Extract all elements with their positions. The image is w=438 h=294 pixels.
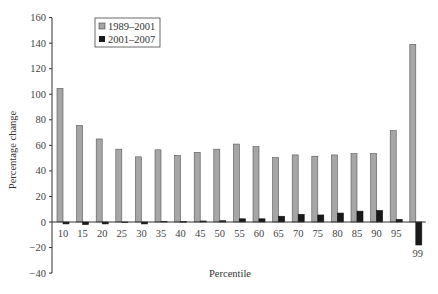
- x-tick-label: 50: [215, 228, 226, 239]
- legend: 1989–2001 2001–2007: [95, 18, 160, 47]
- y-tick-label: 160: [30, 12, 46, 23]
- x-tick-label: 45: [195, 228, 206, 239]
- x-tick-label: 10: [58, 228, 69, 239]
- x-tick-label: 80: [332, 228, 343, 239]
- legend-label-1989-2001: 1989–2001: [108, 21, 155, 32]
- x-tick-label: 75: [313, 228, 324, 239]
- y-tick-label: −40: [30, 268, 46, 279]
- bar-1989-2001-p55: [233, 144, 239, 222]
- bar-1989-2001-p35: [155, 150, 161, 222]
- bar-1989-2001-p45: [194, 152, 200, 222]
- x-tick-label: 40: [175, 228, 186, 239]
- y-tick-label: 140: [30, 38, 46, 49]
- x-tick-label: 90: [371, 228, 382, 239]
- y-tick-label: 0: [41, 217, 46, 228]
- bar-2001-2007-p75: [318, 215, 324, 222]
- x-tick-label: 25: [117, 228, 128, 239]
- bar-2001-2007-p65: [279, 216, 285, 222]
- x-tick-label: 15: [77, 228, 88, 239]
- bar-1989-2001-p80: [331, 155, 337, 222]
- bar-1989-2001-p30: [135, 157, 141, 222]
- bar-2001-2007-p90: [377, 211, 383, 222]
- bar-1989-2001-p99: [410, 44, 416, 222]
- bar-1989-2001-p70: [292, 155, 298, 222]
- legend-swatch-2001-2007: [99, 36, 105, 42]
- x-tick-label: 35: [156, 228, 167, 239]
- y-tick-label: 80: [36, 114, 47, 125]
- bar-2001-2007-p70: [298, 214, 304, 222]
- y-tick-label: 40: [36, 165, 47, 176]
- legend-label-2001-2007: 2001–2007: [108, 34, 155, 45]
- y-tick-label: −20: [30, 242, 46, 253]
- x-tick-label: 55: [234, 228, 245, 239]
- bars: [57, 44, 422, 245]
- bar-1989-2001-p85: [351, 154, 357, 222]
- x-axis-title: Percentile: [209, 268, 251, 279]
- bar-1989-2001-p90: [371, 154, 377, 222]
- bar-1989-2001-p20: [96, 139, 102, 222]
- bar-1989-2001-p65: [273, 157, 279, 222]
- bar-1989-2001-p15: [77, 126, 83, 222]
- x-tick-label: 60: [254, 228, 265, 239]
- bar-1989-2001-p25: [116, 149, 122, 222]
- x-tick-label: 70: [293, 228, 304, 239]
- legend-swatch-1989-2001: [99, 23, 105, 29]
- x-tick-label: 95: [391, 228, 402, 239]
- y-tick-label: 60: [36, 140, 47, 151]
- y-tick-label: 100: [30, 89, 46, 100]
- bar-2001-2007-p85: [357, 211, 363, 222]
- bar-chart: −40−20020406080100120140160 101520253035…: [0, 0, 438, 294]
- x-axis: 10152025303540455055606570758085909599: [52, 222, 426, 259]
- bar-1989-2001-p60: [253, 147, 259, 222]
- bar-1989-2001-p40: [175, 156, 181, 222]
- x-tick-label: 20: [97, 228, 108, 239]
- y-tick-label: 20: [36, 191, 47, 202]
- y-axis: −40−20020406080100120140160: [30, 12, 52, 279]
- bar-2001-2007-p99: [416, 222, 422, 245]
- x-tick-label: 30: [136, 228, 147, 239]
- bar-1989-2001-p95: [390, 131, 396, 222]
- x-tick-label: 85: [352, 228, 363, 239]
- bar-1989-2001-p75: [312, 156, 318, 222]
- x-tick-label: 65: [273, 228, 284, 239]
- x-tick-label: 99: [413, 248, 424, 259]
- bar-1989-2001-p10: [57, 89, 63, 222]
- bar-1989-2001-p50: [214, 149, 220, 222]
- bar-2001-2007-p80: [337, 213, 343, 222]
- y-axis-title: Percentage change: [7, 110, 18, 189]
- y-tick-label: 120: [30, 63, 46, 74]
